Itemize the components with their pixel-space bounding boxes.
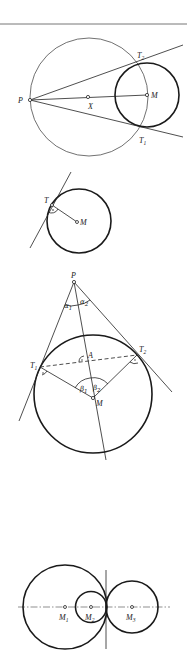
label-t1: T1	[30, 361, 37, 371]
label-p: P	[70, 271, 76, 280]
label-m: M	[150, 91, 159, 100]
label-m1: M1	[58, 613, 69, 623]
figure-1: P X M T2 T1	[17, 38, 183, 156]
point-t	[51, 204, 54, 207]
line-pm	[74, 282, 106, 460]
point-m	[91, 396, 94, 399]
circle-m	[34, 335, 152, 453]
right-angle-dot	[52, 209, 54, 211]
point-m	[145, 93, 148, 96]
tangent-line-t2	[74, 282, 172, 392]
label-beta1: β1	[79, 385, 88, 394]
label-beta2: β2	[92, 384, 101, 393]
label-p: P	[17, 96, 23, 105]
label-t1: T1	[139, 136, 146, 146]
right-angle-a	[79, 356, 84, 362]
figure-2: T M	[30, 172, 111, 253]
point-p	[28, 98, 31, 101]
label-alpha1: α1	[64, 302, 72, 311]
label-t: T	[44, 196, 49, 205]
figure-3: P A M T1 T2 α1 α2 β1 β2	[19, 271, 172, 460]
radius-tm	[52, 205, 77, 222]
tangent-line-t1	[30, 100, 183, 137]
point-m1	[64, 606, 67, 609]
label-m: M	[79, 218, 88, 227]
geometry-figures: P X M T2 T1 T M	[0, 0, 196, 667]
label-m3: M3	[125, 613, 136, 623]
tangent-line-t2	[30, 45, 183, 100]
label-a: A	[87, 351, 93, 360]
point-x	[86, 95, 89, 98]
label-x: X	[87, 102, 94, 111]
point-m2	[90, 606, 93, 609]
label-m2: M2	[84, 613, 95, 623]
label-t2: T2	[139, 345, 146, 355]
point-m3	[131, 606, 134, 609]
figure-4: M1 M2 M3	[18, 565, 170, 649]
label-t2: T2	[137, 51, 144, 61]
right-angle-t1-dot	[42, 372, 43, 373]
point-p	[72, 280, 75, 283]
label-m: M	[95, 399, 104, 408]
right-angle-t2	[130, 362, 138, 364]
point-m	[76, 221, 79, 224]
right-angle-t2-dot	[134, 359, 135, 360]
right-angle-a-dot	[81, 359, 82, 360]
label-alpha2: α2	[80, 298, 89, 307]
